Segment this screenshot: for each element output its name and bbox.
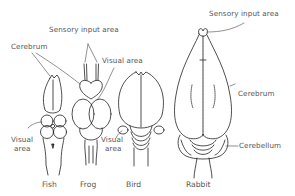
rabbit-brain <box>175 29 232 178</box>
label-visual-fish-line1: Visual <box>11 136 33 144</box>
label-visual-fish-line2: area <box>14 145 30 153</box>
label-cerebrum-right: Cerebrum <box>238 90 275 98</box>
caption-frog: Frog <box>80 180 96 189</box>
fish-brain <box>41 75 67 175</box>
caption-bird: Bird <box>126 180 141 189</box>
label-cerebellum: Cerebellum <box>239 142 281 150</box>
label-visual-area-frog: Visual area <box>102 57 143 65</box>
brain-comparison-diagram: Sensory input area Cerebrum Visual area … <box>0 0 295 196</box>
bird-brain <box>118 72 164 166</box>
diagram-drawing <box>0 0 295 196</box>
label-sensory-input-area-right: Sensory input area <box>209 10 279 18</box>
caption-fish: Fish <box>42 180 57 189</box>
label-cerebrum-left: Cerebrum <box>11 43 48 51</box>
label-visual-bird-line2: area <box>105 145 121 153</box>
caption-rabbit: Rabbit <box>186 180 211 189</box>
label-sensory-input-area-left: Sensory input area <box>49 26 119 34</box>
label-visual-bird-line1: Visual <box>101 136 123 144</box>
